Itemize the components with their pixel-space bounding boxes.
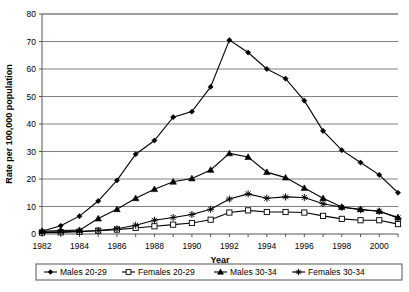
data-point	[301, 185, 308, 191]
data-point	[357, 206, 364, 213]
data-point	[295, 269, 301, 275]
data-series	[38, 38, 401, 236]
data-point	[320, 195, 327, 201]
data-point	[263, 195, 270, 202]
y-tick-label: 80	[27, 9, 37, 19]
data-point	[264, 209, 269, 214]
data-point	[395, 222, 400, 227]
data-point	[152, 224, 157, 229]
chart-legend: Males 20-29Females 20-29Males 30-34Femal…	[36, 264, 402, 280]
line-chart: 01020304050607080 1982198419861988199019…	[0, 0, 409, 292]
data-point	[171, 222, 176, 227]
data-point	[189, 175, 196, 181]
x-tick-label: 1994	[257, 241, 276, 251]
data-point	[170, 214, 177, 221]
data-point	[358, 218, 363, 223]
y-tick-label: 70	[27, 37, 37, 47]
data-point	[208, 217, 213, 222]
x-tick-label: 1982	[33, 241, 52, 251]
legend-label: Females 20-29	[138, 267, 195, 277]
y-axis-title: Rate per 100,000 population	[4, 64, 14, 184]
data-point	[245, 190, 252, 197]
y-tick-label: 50	[27, 92, 37, 102]
data-point	[282, 193, 289, 200]
series-line	[42, 194, 398, 232]
x-tick-label: 1988	[145, 241, 164, 251]
x-tick-label: 1986	[107, 241, 126, 251]
data-point	[320, 200, 327, 207]
data-point	[301, 194, 308, 201]
legend-label: Males 30-34	[230, 267, 277, 277]
x-tick-label: 1996	[295, 241, 314, 251]
axes	[39, 14, 398, 237]
data-point	[227, 210, 232, 215]
data-point	[376, 208, 383, 215]
data-point	[302, 210, 307, 215]
x-tick-label: 1984	[70, 241, 89, 251]
y-tick-label: 0	[31, 229, 36, 239]
data-point	[339, 216, 344, 221]
y-tick-label: 10	[27, 202, 37, 212]
data-point	[151, 217, 158, 224]
legend-label: Males 20-29	[60, 267, 107, 277]
x-tick-label: 1992	[220, 241, 239, 251]
data-point	[320, 213, 325, 218]
data-point	[189, 220, 194, 225]
x-tick-label: 1998	[332, 241, 351, 251]
data-point	[283, 209, 288, 214]
data-point	[188, 211, 195, 218]
data-point	[394, 215, 401, 222]
data-point	[246, 208, 251, 213]
y-tick-labels: 01020304050607080	[27, 9, 37, 239]
series-4	[38, 190, 401, 235]
series-3	[39, 150, 402, 234]
data-point	[132, 195, 139, 201]
gridlines	[42, 14, 398, 207]
y-tick-label: 30	[27, 147, 37, 157]
y-tick-label: 60	[27, 64, 37, 74]
y-axis-title-text: Rate per 100,000 population	[4, 64, 14, 184]
data-point	[226, 196, 233, 203]
data-point	[95, 215, 102, 221]
x-tick-labels: 1982198419861988199019921994199619982000	[33, 241, 389, 251]
x-tick-label: 1990	[182, 241, 201, 251]
data-point	[126, 270, 131, 275]
legend-label: Females 30-34	[308, 267, 365, 277]
data-point	[377, 218, 382, 223]
x-tick-label: 2000	[370, 241, 389, 251]
y-tick-label: 40	[27, 119, 37, 129]
data-point	[76, 228, 83, 235]
chart-canvas: 01020304050607080 1982198419861988199019…	[0, 0, 409, 292]
y-tick-label: 20	[27, 174, 37, 184]
